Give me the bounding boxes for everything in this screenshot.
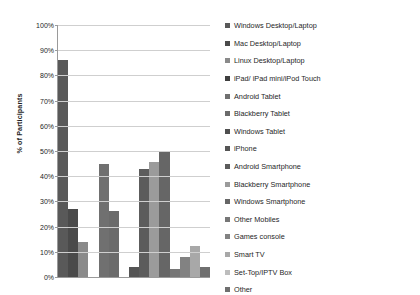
legend-item[interactable]: Windows Smartphone [225, 193, 420, 211]
bar [180, 257, 190, 277]
legend-item[interactable]: Blackberry Tablet [225, 105, 420, 123]
legend-item-label: iPhone [234, 144, 257, 153]
legend-swatch-icon [225, 76, 230, 81]
bar [129, 267, 139, 277]
y-axis-tick-label: 20% [40, 223, 54, 230]
bar [139, 169, 149, 277]
legend-item[interactable]: iPad/ iPad mini/iPod Touch [225, 70, 420, 88]
y-axis-tickmark [55, 25, 58, 26]
bar [190, 246, 200, 278]
legend-item-label: Mac Desktop/Laptop [234, 39, 301, 48]
y-axis-tickmark [55, 126, 58, 127]
bar [159, 151, 169, 277]
gridline [58, 25, 210, 26]
legend-item[interactable]: Mac Desktop/Laptop [225, 35, 420, 53]
legend-item-label: Set-Top/IPTV Box [234, 268, 292, 277]
bar [109, 211, 119, 277]
legend-swatch-icon [225, 287, 230, 292]
legend-swatch-icon [225, 270, 230, 275]
legend-swatch-icon [225, 94, 230, 99]
y-axis-tick-labels: 0%10%20%30%40%50%60%70%80%90%100% [18, 21, 54, 281]
y-axis-tick-label: 60% [40, 122, 54, 129]
y-axis-tick-label: 50% [40, 148, 54, 155]
legend-swatch-icon [225, 234, 230, 239]
legend-item-label: Games console [234, 232, 285, 241]
bar [68, 209, 78, 277]
legend-swatch-icon [225, 146, 230, 151]
y-axis-tick-label: 80% [40, 72, 54, 79]
y-axis-tickmark [55, 201, 58, 202]
y-axis-tickmark [55, 75, 58, 76]
bar [78, 242, 88, 277]
legend-item[interactable]: Windows Desktop/Laptop [225, 17, 420, 35]
legend-item-label: Windows Desktop/Laptop [234, 21, 317, 30]
bar [149, 162, 159, 277]
bar-chart: % of Participants 0%10%20%30%40%50%60%70… [0, 0, 420, 295]
y-axis-tickmark [55, 252, 58, 253]
legend-item-label: Windows Tablet [234, 127, 285, 136]
bar [200, 267, 210, 277]
y-axis-tick-label: 0% [44, 274, 54, 281]
y-axis-tickmark [55, 277, 58, 278]
y-axis-tick-label: 100% [36, 22, 54, 29]
legend-item[interactable]: Other Mobiles [225, 211, 420, 229]
plot-area: % of Participants 0%10%20%30%40%50%60%70… [0, 0, 215, 295]
y-axis-tickmark [55, 227, 58, 228]
legend-item[interactable]: Blackberry Smartphone [225, 175, 420, 193]
legend-swatch-icon [225, 252, 230, 257]
gridline [58, 176, 210, 177]
legend-item[interactable]: Linux Desktop/Laptop [225, 52, 420, 70]
gridline [58, 252, 210, 253]
legend-swatch-icon [225, 129, 230, 134]
y-axis-tick-label: 10% [40, 248, 54, 255]
bar [170, 269, 180, 277]
legend-item-label: Smart TV [234, 250, 265, 259]
legend-item[interactable]: Android Tablet [225, 87, 420, 105]
legend-item[interactable]: Games console [225, 228, 420, 246]
legend-swatch-icon [225, 217, 230, 222]
legend-swatch-icon [225, 23, 230, 28]
gridline [58, 101, 210, 102]
gridline [58, 50, 210, 51]
y-axis-tick-label: 70% [40, 97, 54, 104]
legend-item-label: Android Smartphone [234, 162, 301, 171]
legend-swatch-icon [225, 41, 230, 46]
gridline [58, 75, 210, 76]
legend-item-label: Other [234, 285, 252, 294]
legend-item-label: Blackberry Smartphone [234, 180, 310, 189]
y-axis-tickmark [55, 50, 58, 51]
legend-swatch-icon [225, 111, 230, 116]
legend-swatch-icon [225, 182, 230, 187]
legend-item[interactable]: Set-Top/IPTV Box [225, 263, 420, 281]
legend-item-label: iPad/ iPad mini/iPod Touch [234, 74, 321, 83]
gridline [58, 151, 210, 152]
legend-item[interactable]: iPhone [225, 140, 420, 158]
y-axis-tickmark [55, 151, 58, 152]
gridline [58, 227, 210, 228]
y-axis-tick-label: 30% [40, 198, 54, 205]
y-axis-tick-label: 40% [40, 173, 54, 180]
y-axis-tickmark [55, 176, 58, 177]
legend-item-label: Android Tablet [234, 92, 281, 101]
bar [58, 60, 68, 277]
legend-swatch-icon [225, 58, 230, 63]
axes [57, 25, 210, 278]
y-axis-tickmark [55, 101, 58, 102]
legend-item[interactable]: Smart TV [225, 246, 420, 264]
legend-item[interactable]: Windows Tablet [225, 123, 420, 141]
legend-item-label: Other Mobiles [234, 215, 279, 224]
legend-swatch-icon [225, 164, 230, 169]
bar [99, 164, 109, 277]
legend-swatch-icon [225, 199, 230, 204]
legend: Windows Desktop/LaptopMac Desktop/Laptop… [225, 17, 420, 295]
gridline [58, 126, 210, 127]
legend-item-label: Windows Smartphone [234, 197, 305, 206]
legend-item[interactable]: Android Smartphone [225, 158, 420, 176]
legend-item-label: Linux Desktop/Laptop [234, 56, 305, 65]
legend-item[interactable]: Other [225, 281, 420, 295]
gridline [58, 201, 210, 202]
legend-item-label: Blackberry Tablet [234, 109, 290, 118]
y-axis-tick-label: 90% [40, 47, 54, 54]
